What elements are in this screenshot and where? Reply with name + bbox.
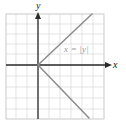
graph-figure: x y x = |y| [0,0,126,127]
coordinate-plane [0,0,126,127]
y-axis-arrowhead [35,12,41,19]
absolute-value-curve [38,14,92,118]
y-axis-label: y [36,1,40,11]
x-axis-label: x [113,60,117,70]
grid-vertical-lines [6,14,104,119]
grid-horizontal-lines [6,14,104,119]
x-axis [6,62,112,68]
curve-lower-branch [38,65,89,118]
curve-upper-branch [38,14,92,65]
equation-annotation: x = |y| [64,45,89,54]
x-axis-arrowhead [105,62,112,68]
grid-border [6,14,104,119]
